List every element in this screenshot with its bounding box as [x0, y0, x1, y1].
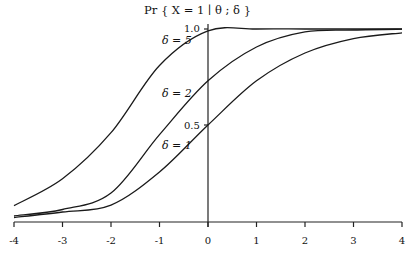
- x-tick-label: -4: [9, 235, 19, 246]
- curve-label-delta-5: δ = 5: [162, 34, 192, 47]
- x-tick-label: -2: [106, 235, 116, 246]
- x-tick-label: 4: [399, 235, 405, 246]
- curve-label-delta-1: δ = 1: [162, 139, 192, 152]
- curve-label-delta-2: δ = 2: [162, 87, 192, 100]
- y-tick-label-05: 0.5: [184, 120, 200, 131]
- x-tick-label: 1: [253, 235, 259, 246]
- x-tick-label: -1: [155, 235, 165, 246]
- y-tick-label-1: 1.0: [184, 23, 200, 34]
- chart-title: Pr { X = 1 ∣ θ ; δ }: [144, 3, 251, 17]
- x-axis: -4-3-2-101234: [9, 222, 405, 246]
- x-tick-label: 0: [205, 235, 211, 246]
- x-tick-label: 2: [302, 235, 308, 246]
- x-tick-label: -3: [58, 235, 68, 246]
- x-tick-label: 3: [350, 235, 356, 246]
- item-characteristic-chart: -4-3-2-101234 Pr { X = 1 ∣ θ ; δ } 1.0 0…: [0, 0, 418, 256]
